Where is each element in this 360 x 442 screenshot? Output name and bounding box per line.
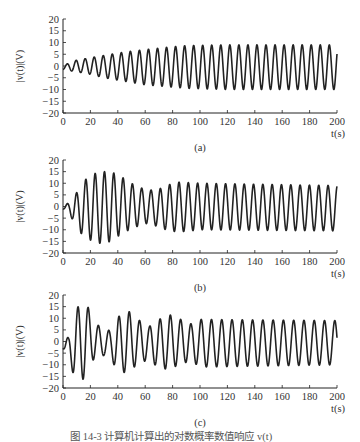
x-tick-label: 40 [113, 116, 124, 127]
y-tick-label: −15 [43, 371, 59, 382]
x-tick-label: 80 [167, 391, 178, 402]
x-tick-label: 40 [113, 256, 124, 267]
y-tick-label: −5 [48, 348, 59, 359]
panel-label: (c) [194, 417, 206, 429]
y-tick-label: 15 [49, 166, 60, 177]
y-tick-label: 20 [49, 155, 60, 166]
x-tick-label: 60 [140, 391, 151, 402]
x-tick-label: 160 [274, 116, 290, 127]
x-tick-label: 0 [60, 256, 65, 267]
x-tick-label: 120 [220, 391, 236, 402]
figure-canvas: 20151050−5−10−15−20020406080100120140160… [0, 0, 360, 442]
x-tick-label: 80 [167, 256, 178, 267]
chart-panel-c: 20151050−5−10−15−20020406080100120140160… [14, 290, 346, 430]
x-tick-label: 200 [329, 391, 345, 402]
panel-label: (b) [194, 282, 207, 294]
x-tick-label: 40 [113, 391, 124, 402]
x-tick-label: 160 [274, 391, 290, 402]
x-axis-label: t(s) [331, 403, 346, 415]
y-tick-label: −5 [48, 213, 59, 224]
waveform-line [63, 172, 337, 244]
y-tick-label: 10 [49, 313, 60, 324]
x-tick-label: 160 [274, 256, 290, 267]
y-tick-label: −10 [43, 84, 59, 95]
y-tick-label: 5 [54, 49, 59, 60]
x-tick-label: 140 [247, 116, 263, 127]
y-tick-label: 0 [54, 201, 59, 212]
chart-panel-a: 20151050−5−10−15−20020406080100120140160… [14, 14, 346, 155]
y-tick-label: 15 [49, 25, 60, 36]
waveform-line [63, 45, 337, 90]
x-tick-label: 120 [220, 256, 236, 267]
x-tick-label: 80 [167, 116, 178, 127]
x-tick-label: 100 [192, 256, 208, 267]
y-tick-label: −15 [43, 96, 59, 107]
y-tick-label: 0 [54, 336, 59, 347]
y-tick-label: −20 [43, 108, 59, 119]
x-axis-label: t(s) [331, 128, 346, 140]
x-tick-label: 180 [302, 256, 318, 267]
y-tick-label: 5 [54, 324, 59, 335]
waveform-line [63, 307, 337, 379]
y-tick-label: 0 [54, 61, 59, 72]
x-tick-label: 180 [302, 391, 318, 402]
x-tick-label: 0 [60, 116, 65, 127]
x-tick-label: 120 [220, 116, 236, 127]
y-axis-label: |v(t)|(V) [14, 190, 26, 222]
panel-label: (a) [194, 142, 206, 154]
figure-caption: 图 14-3 计算机计算出的对数概率数值响应 v(t) [70, 430, 273, 442]
x-tick-label: 60 [140, 116, 151, 127]
x-tick-label: 180 [302, 116, 318, 127]
x-tick-label: 20 [85, 256, 96, 267]
x-tick-label: 60 [140, 256, 151, 267]
x-tick-label: 20 [85, 391, 96, 402]
y-tick-label: −20 [43, 248, 59, 259]
x-tick-label: 140 [247, 391, 263, 402]
y-tick-label: 5 [54, 189, 59, 200]
x-tick-label: 20 [85, 116, 96, 127]
y-tick-label: −15 [43, 236, 59, 247]
y-tick-label: 20 [49, 14, 60, 25]
y-tick-label: 10 [49, 37, 60, 48]
y-tick-label: −5 [48, 72, 59, 83]
y-tick-label: 15 [49, 301, 60, 312]
y-tick-label: −10 [43, 359, 59, 370]
y-tick-label: 10 [49, 178, 60, 189]
y-tick-label: −20 [43, 383, 59, 394]
x-tick-label: 100 [192, 391, 208, 402]
y-tick-label: 20 [49, 290, 60, 301]
y-tick-label: −10 [43, 224, 59, 235]
chart-panel-b: 20151050−5−10−15−20020406080100120140160… [14, 155, 346, 295]
x-tick-label: 100 [192, 116, 208, 127]
y-axis-label: |v(t)|(V) [14, 50, 26, 82]
x-tick-label: 200 [329, 116, 345, 127]
x-axis-label: t(s) [331, 268, 346, 280]
y-axis-label: |v(t)|(V) [14, 325, 26, 357]
x-tick-label: 0 [60, 391, 65, 402]
x-tick-label: 200 [329, 256, 345, 267]
x-tick-label: 140 [247, 256, 263, 267]
